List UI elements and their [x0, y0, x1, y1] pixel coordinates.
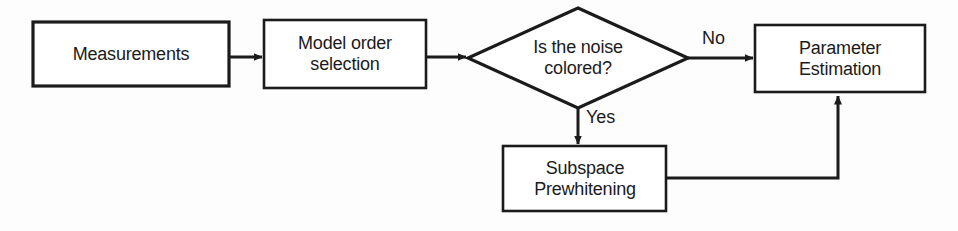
- edge-subspace-to-parameter-estimation: [666, 96, 838, 178]
- node-label-line: Subspace: [534, 158, 636, 179]
- node-label-line: selection: [298, 54, 392, 75]
- flowchart-canvas: Measurements Model order selection Is th…: [0, 0, 958, 231]
- node-label-parameter-estimation: Parameter Estimation: [755, 25, 925, 93]
- node-label-line: Is the noise: [533, 37, 623, 58]
- edge-label-yes: Yes: [586, 107, 615, 127]
- node-label-subspace-prewhitening: Subspace Prewhitening: [503, 146, 667, 212]
- node-label-measurements: Measurements: [33, 22, 229, 86]
- node-label-line: Model order: [298, 33, 392, 54]
- node-label-line: Parameter: [799, 38, 881, 59]
- node-label-line: colored?: [533, 58, 623, 79]
- edge-label-no: No: [702, 28, 725, 48]
- node-label-model-order-selection: Model order selection: [264, 20, 426, 88]
- node-label-line: Estimation: [799, 59, 881, 80]
- node-label-noise-decision: Is the noise colored?: [489, 26, 667, 90]
- node-label-line: Prewhitening: [534, 179, 636, 200]
